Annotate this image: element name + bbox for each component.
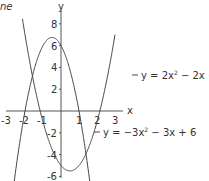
chart: ne y x -3-2-11238642-2-4-6 y = 2x2 − 2x … (0, 0, 209, 181)
svg-text:6: 6 (51, 41, 57, 52)
svg-text:3: 3 (112, 115, 118, 126)
svg-text:-6: -6 (47, 171, 57, 181)
svg-text:2: 2 (51, 84, 57, 95)
svg-text:-3: -3 (1, 115, 11, 126)
svg-text:8: 8 (51, 19, 57, 30)
x-axis-label: x (127, 105, 133, 116)
corner-text: ne (0, 1, 13, 12)
svg-text:-2: -2 (47, 128, 57, 139)
svg-text:-4: -4 (47, 150, 57, 161)
series-label-2: y = −3x2 − 3x + 6 (103, 126, 196, 138)
y-axis-label: y (58, 1, 64, 12)
svg-text:4: 4 (51, 62, 57, 73)
plot-area: ne y x -3-2-11238642-2-4-6 y = 2x2 − 2x … (0, 0, 209, 181)
parabola-1 (23, 19, 116, 171)
series-label-1: y = 2x2 − 2x − 5 (141, 69, 209, 81)
